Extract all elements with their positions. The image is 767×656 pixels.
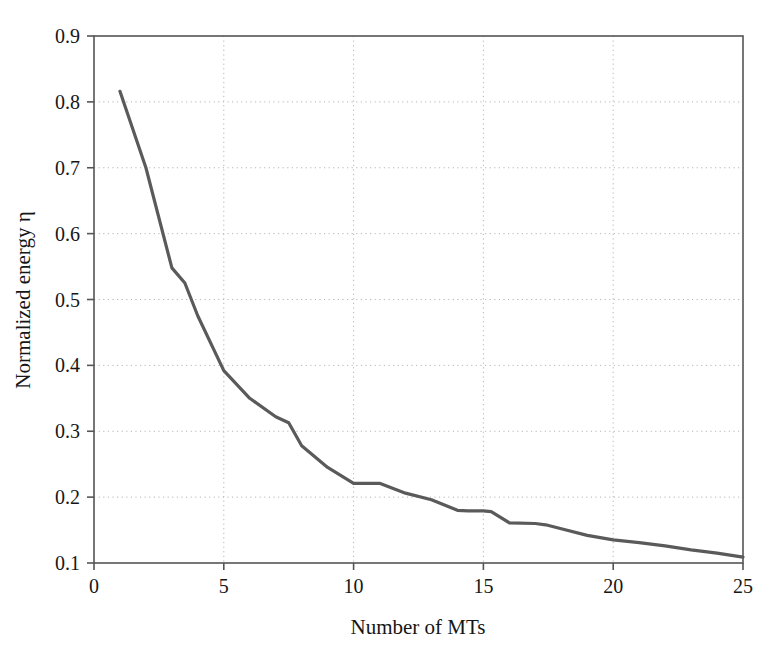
y-tick-label: 0.6 [55, 223, 80, 245]
x-tick-label: 15 [473, 575, 493, 597]
y-tick-label: 0.5 [55, 289, 80, 311]
y-tick-label: 0.7 [55, 157, 80, 179]
x-axis-title: Number of MTs [350, 615, 485, 639]
chart-background [0, 0, 767, 656]
y-tick-label: 0.3 [55, 420, 80, 442]
y-tick-label: 0.1 [55, 552, 80, 574]
y-tick-label: 0.4 [55, 354, 80, 376]
y-axis-tick-labels: 0.10.20.30.40.50.60.70.80.9 [55, 25, 80, 574]
x-tick-label: 20 [603, 575, 623, 597]
figure-container: 0510152025 0.10.20.30.40.50.60.70.80.9 N… [0, 0, 767, 656]
x-tick-label: 10 [344, 575, 364, 597]
y-tick-label: 0.8 [55, 91, 80, 113]
y-axis-title: Normalized energy η [11, 211, 35, 388]
line-chart: 0510152025 0.10.20.30.40.50.60.70.80.9 N… [0, 0, 767, 656]
x-tick-label: 0 [89, 575, 99, 597]
y-tick-label: 0.2 [55, 486, 80, 508]
x-tick-label: 5 [219, 575, 229, 597]
y-tick-label: 0.9 [55, 25, 80, 47]
x-tick-label: 25 [733, 575, 753, 597]
